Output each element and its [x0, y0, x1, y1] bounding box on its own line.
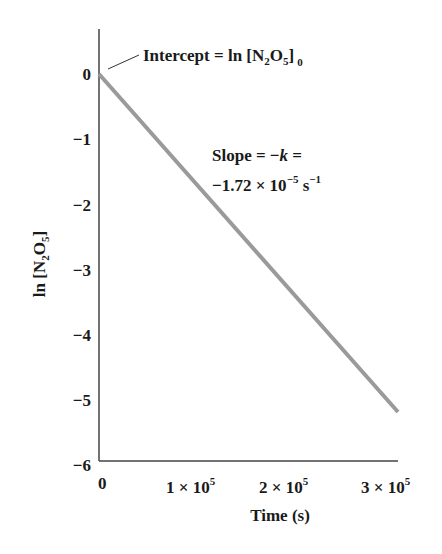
x-tick-label: 0 — [98, 474, 107, 493]
slope-annotation-line1: Slope = −k = — [212, 146, 302, 165]
x-tick-label: 2 × 105 — [259, 475, 309, 497]
x-axis-title: Time (s) — [250, 506, 310, 525]
y-tick-label: 0 — [83, 65, 92, 84]
y-tick-labels: 0 −1 −2 −3 −4 −5 −6 — [73, 65, 92, 475]
intercept-annotation: Intercept = ln [N2O5]0 — [143, 46, 303, 68]
data-line — [99, 74, 398, 412]
y-tick-label: −5 — [73, 391, 91, 410]
x-tick-label: 3 × 105 — [361, 475, 411, 497]
x-tick-labels: 0 1 × 105 2 × 105 3 × 105 — [98, 474, 411, 497]
y-tick-label: −2 — [73, 196, 91, 215]
y-tick-label: −1 — [73, 130, 91, 149]
y-tick-label: −6 — [73, 456, 91, 475]
y-axis-title: ln [N2O5] — [30, 231, 51, 297]
y-tick-label: −4 — [73, 326, 92, 345]
intercept-leader-line — [108, 55, 139, 69]
x-tick-label: 1 × 105 — [166, 475, 216, 497]
slope-annotation-line2: −1.72 × 10−5 s−1 — [212, 173, 321, 195]
chart: 0 −1 −2 −3 −4 −5 −6 0 1 × 105 2 × 105 3 … — [0, 0, 442, 554]
y-tick-label: −3 — [73, 261, 91, 280]
